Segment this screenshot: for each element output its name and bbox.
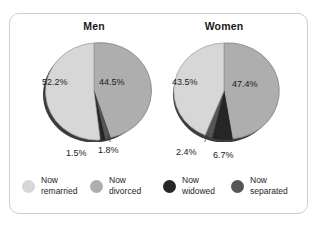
- chart-title-women: Women: [154, 20, 294, 32]
- legend-swatch-separated-icon: [231, 180, 244, 193]
- legend-label-remarried-line2: remarried: [41, 186, 77, 197]
- legend-label-divorced: Now divorced: [109, 175, 141, 197]
- legend-label-divorced-line1: Now: [109, 175, 126, 185]
- pie-svg-men: [24, 37, 164, 142]
- legend-label-separated: Now separated: [250, 175, 288, 197]
- legend-label-widowed: Now widowed: [182, 175, 215, 197]
- pie-slice-women-divorced: [224, 43, 279, 139]
- chart-title-men: Men: [24, 20, 164, 32]
- legend-label-separated-line2: separated: [250, 186, 288, 197]
- pie-graphic-women: 43.5% 47.4%: [154, 37, 294, 142]
- legend-swatch-divorced-icon: [90, 180, 103, 193]
- legend-label-separated-line1: Now: [250, 175, 267, 185]
- callout-label-women-separated: 2.4%: [176, 147, 197, 157]
- legend-label-widowed-line1: Now: [182, 175, 199, 185]
- pie-graphic-men: 52.2% 44.5%: [24, 37, 164, 142]
- legend-swatch-remarried-icon: [22, 180, 35, 193]
- slice-label-men-remarried: 52.2%: [42, 77, 68, 87]
- legend-label-divorced-line2: divorced: [109, 186, 141, 197]
- pie-chart-women: Women 43.5% 47.4% 2.4%: [154, 20, 294, 170]
- slice-label-men-divorced: 44.5%: [99, 77, 125, 87]
- pie-chart-men: Men 52.2%: [24, 20, 164, 170]
- chart-legend: Now remarried Now divorced Now widowed: [22, 175, 297, 207]
- legend-swatch-widowed-icon: [163, 180, 176, 193]
- legend-label-remarried-line1: Now: [41, 175, 58, 185]
- figure-canvas: Men 52.2%: [0, 0, 319, 230]
- callout-label-women-widowed: 6.7%: [213, 150, 234, 160]
- chart-card-frame: Men 52.2%: [9, 13, 308, 214]
- pie-svg-women: [154, 37, 294, 142]
- slice-label-women-divorced: 47.4%: [232, 79, 258, 89]
- callout-label-men-separated: 1.8%: [98, 145, 119, 155]
- legend-label-widowed-line2: widowed: [182, 186, 215, 197]
- legend-label-remarried: Now remarried: [41, 175, 77, 197]
- pie-slice-men-remarried: [45, 43, 100, 140]
- slice-label-women-remarried: 43.5%: [172, 77, 198, 87]
- callout-label-men-widowed: 1.5%: [66, 148, 87, 158]
